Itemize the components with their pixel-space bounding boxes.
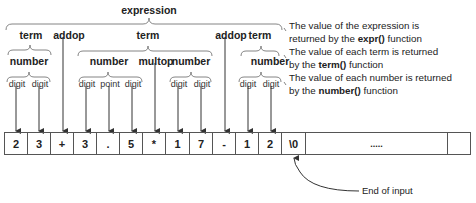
end-of-input-label: End of input	[362, 185, 413, 196]
input-cell: 3	[27, 132, 51, 155]
digit-label: digit	[9, 80, 26, 89]
number-label: number	[90, 56, 129, 67]
number-label: number	[10, 56, 49, 67]
input-cell: 2	[258, 132, 282, 155]
input-cell-empty	[447, 132, 471, 155]
digit-label: digit	[79, 80, 96, 89]
input-cell: *	[142, 132, 166, 155]
digit-label: digit	[171, 80, 188, 89]
term-label: term	[137, 30, 160, 41]
term-label: term	[20, 30, 43, 41]
digit-label: digit	[263, 80, 280, 89]
digit-label: digit	[194, 80, 211, 89]
expression-label: expression	[121, 5, 176, 16]
addop-label: addop	[215, 30, 247, 41]
number-label: number	[251, 56, 290, 67]
input-cell: 2	[4, 132, 28, 155]
digit-label: digit	[240, 80, 257, 89]
input-cell: .	[96, 132, 120, 155]
note-term: The value of each term is returned by th…	[289, 46, 438, 71]
end-of-input-cell: \0	[281, 132, 306, 155]
input-cell: +	[50, 132, 74, 155]
input-cell: 5	[119, 132, 143, 155]
input-cell: -	[212, 132, 236, 155]
note-number: The value of each number is returned by …	[289, 72, 452, 97]
point-label: point	[100, 80, 120, 89]
input-cell: 3	[73, 132, 97, 155]
number-label: number	[172, 56, 211, 67]
input-cell: 1	[165, 132, 190, 155]
input-cell: 7	[189, 132, 213, 155]
digit-label: digit	[125, 80, 142, 89]
input-cell: 1	[235, 132, 259, 155]
note-expression: The value of the expression is returned …	[289, 20, 422, 45]
multop-label: multop	[139, 56, 174, 67]
digit-label: digit	[32, 80, 49, 89]
term-label: term	[249, 30, 272, 41]
ellipsis-cell: .....	[305, 132, 448, 155]
addop-label: addop	[53, 30, 85, 41]
